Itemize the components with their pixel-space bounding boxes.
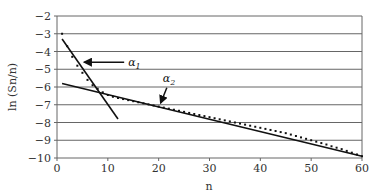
chart: −2−3−4−5−6−7−8−9−10 0102030405060 α1α2 n… xyxy=(0,0,383,196)
data-point xyxy=(224,119,226,121)
data-point xyxy=(148,103,150,105)
y-tick-label: −5 xyxy=(35,63,51,76)
data-point xyxy=(117,97,119,99)
y-tick-labels: −2−3−4−5−6−7−8−9−10 xyxy=(28,10,51,165)
x-tick-label: 40 xyxy=(253,162,267,175)
data-point xyxy=(310,139,312,141)
data-point xyxy=(163,107,165,109)
data-point xyxy=(122,98,124,100)
data-point xyxy=(244,124,246,126)
data-point xyxy=(209,116,211,118)
y-axis-title: ln (Sn/n) xyxy=(6,63,19,111)
data-point xyxy=(341,148,343,150)
gridlines xyxy=(57,16,362,158)
x-tick-labels: 0102030405060 xyxy=(54,162,370,175)
data-point xyxy=(320,142,322,144)
data-point xyxy=(183,111,185,113)
y-tick-label: −8 xyxy=(35,117,51,130)
data-point xyxy=(142,102,144,104)
y-tick-label: −10 xyxy=(28,152,51,165)
data-point xyxy=(87,79,89,81)
data-point xyxy=(300,136,302,138)
x-tick-label: 0 xyxy=(54,162,61,175)
data-point xyxy=(249,125,251,127)
data-point xyxy=(203,115,205,117)
data-point xyxy=(107,94,109,96)
data-point xyxy=(193,113,195,115)
data-point xyxy=(264,128,266,130)
data-point xyxy=(361,155,363,157)
data-point xyxy=(66,45,68,47)
data-point xyxy=(280,131,282,133)
x-tick-label: 60 xyxy=(355,162,369,175)
data-point xyxy=(92,84,94,86)
data-point xyxy=(295,135,297,137)
data-point xyxy=(137,101,139,103)
x-tick-label: 10 xyxy=(101,162,115,175)
data-point xyxy=(351,152,353,154)
data-point xyxy=(112,96,114,98)
data-point xyxy=(239,123,241,125)
x-tick-label: 50 xyxy=(304,162,318,175)
x-tick-label: 20 xyxy=(152,162,166,175)
data-point xyxy=(285,132,287,134)
data-point xyxy=(315,141,317,143)
annotation-arrow xyxy=(161,88,167,103)
data-point xyxy=(188,112,190,114)
data-point xyxy=(132,100,134,102)
data-point xyxy=(325,144,327,146)
data-point xyxy=(168,108,170,110)
y-tick-label: −7 xyxy=(35,99,51,112)
data-point xyxy=(254,126,256,128)
data-point xyxy=(97,88,99,90)
fit-lines xyxy=(62,39,362,156)
data-point xyxy=(290,134,292,136)
data-point xyxy=(61,33,63,35)
data-point xyxy=(234,122,236,124)
annotation-label: α1 xyxy=(128,56,141,71)
data-point xyxy=(229,120,231,122)
data-point xyxy=(270,129,272,131)
data-point xyxy=(336,147,338,149)
data-point xyxy=(331,145,333,147)
data-point xyxy=(214,117,216,119)
data-point xyxy=(173,109,175,111)
data-point xyxy=(127,99,129,101)
data-point xyxy=(81,72,83,74)
y-tick-label: −9 xyxy=(35,134,51,147)
x-axis-title: n xyxy=(205,180,212,193)
data-point xyxy=(305,138,307,140)
y-tick-label: −6 xyxy=(35,81,51,94)
data-point xyxy=(275,130,277,132)
data-point xyxy=(71,56,73,58)
data-point xyxy=(178,110,180,112)
axes xyxy=(54,16,362,161)
data-point xyxy=(259,127,261,129)
data-point xyxy=(158,106,160,108)
data-point xyxy=(356,153,358,155)
data-point xyxy=(219,118,221,120)
x-tick-label: 30 xyxy=(203,162,217,175)
data-point xyxy=(102,91,104,93)
data-point xyxy=(153,104,155,106)
y-tick-label: −4 xyxy=(35,46,51,59)
annotations: α1α2 xyxy=(84,56,175,103)
data-point xyxy=(198,114,200,116)
data-point xyxy=(76,65,78,67)
y-tick-label: −2 xyxy=(35,10,51,23)
y-tick-label: −3 xyxy=(35,28,51,41)
annotation-label: α2 xyxy=(163,72,176,87)
data-point xyxy=(346,150,348,152)
